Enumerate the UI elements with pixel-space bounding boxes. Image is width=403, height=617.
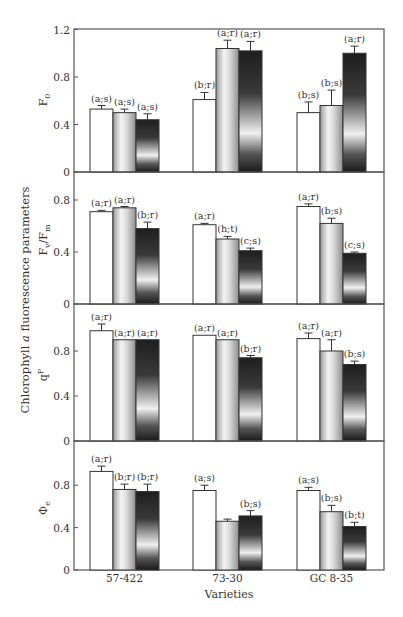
significance-label: (a;r) <box>91 311 112 322</box>
bar <box>193 335 216 441</box>
bar <box>216 340 239 441</box>
bar <box>113 489 136 570</box>
significance-label: (a;s) <box>298 474 319 485</box>
significance-label: (b;s) <box>344 348 366 359</box>
panel-y-label: F0 <box>37 94 52 107</box>
significance-label: (a;r) <box>240 28 261 39</box>
significance-label: (h;t) <box>217 223 238 234</box>
bar <box>216 239 239 304</box>
significance-label: (a;r) <box>114 327 135 338</box>
bar <box>320 106 343 173</box>
bar <box>113 340 136 441</box>
significance-label: (a;r) <box>137 327 158 338</box>
significance-label: (b;s) <box>298 89 320 100</box>
shared-y-axis-label: Chlorophyll a fluorescence parameters <box>18 186 32 413</box>
bar <box>297 113 320 172</box>
panel-1: 00.40.8Fv/Fm(a;r)(a;r)(a;r)(a;r)(h;t)(b;… <box>37 172 384 310</box>
bar <box>320 351 343 441</box>
bar <box>136 492 159 570</box>
significance-label: (b;r) <box>240 343 261 354</box>
y-tick-label: 0.8 <box>53 194 70 206</box>
x-axis: 57-42273-30GC 8-35 <box>106 572 353 584</box>
significance-label: (b;s) <box>321 492 343 503</box>
significance-label: (a;s) <box>91 93 112 104</box>
bar <box>297 491 320 571</box>
bar <box>343 365 366 442</box>
significance-label: (c;s) <box>344 239 365 250</box>
bar <box>193 100 216 172</box>
bar <box>216 49 239 173</box>
bar <box>239 51 262 172</box>
x-category-label: 57-422 <box>106 572 143 584</box>
bar <box>193 491 216 571</box>
y-tick-label: 0.8 <box>53 345 70 357</box>
bar <box>136 340 159 441</box>
significance-label: (b;s) <box>321 77 343 88</box>
bar <box>113 208 136 304</box>
bar <box>193 225 216 304</box>
bar <box>320 223 343 304</box>
bar <box>343 53 366 172</box>
bar <box>343 253 366 304</box>
significance-label: (a;r) <box>217 27 238 38</box>
significance-label: (a;r) <box>91 197 112 208</box>
y-tick-label: 1.2 <box>53 24 70 36</box>
significance-label: (b;r) <box>194 79 215 90</box>
significance-label: (b;s) <box>240 498 262 509</box>
significance-label: (b;t) <box>344 509 365 520</box>
bar <box>320 512 343 570</box>
panel-2: 00.40.8qP(a;r)(a;r)(a;r)(a;r)(a;r)(a;r)(… <box>36 304 384 447</box>
significance-label: (a;r) <box>321 327 342 338</box>
bar <box>113 113 136 172</box>
panel-y-label: Fv/Fm <box>37 224 52 256</box>
bar <box>297 339 320 441</box>
significance-label: (b;r) <box>137 209 158 220</box>
significance-label: (a;r) <box>298 191 319 202</box>
bar <box>343 527 366 570</box>
y-tick-label: 0 <box>63 435 70 447</box>
significance-label: (c;s) <box>240 235 261 246</box>
bar <box>239 516 262 570</box>
bar <box>90 212 113 304</box>
bar <box>136 120 159 172</box>
chlorophyll-fluorescence-figure: 00.40.81.2F0(a;s)(b;r)(b;s)(a;s)(a;r)(b;… <box>0 0 403 617</box>
bar <box>90 331 113 441</box>
bar <box>90 109 113 172</box>
y-tick-label: 0.8 <box>53 479 70 491</box>
significance-label: (a;s) <box>194 472 215 483</box>
y-tick-label: 0.8 <box>53 71 70 83</box>
x-category-label: GC 8-35 <box>310 572 353 584</box>
y-tick-label: 0 <box>63 298 70 310</box>
panel-0: 00.40.81.2F0(a;s)(b;r)(b;s)(a;s)(a;r)(b;… <box>37 24 384 179</box>
bar <box>239 251 262 304</box>
x-axis-label: Varieties <box>204 588 254 601</box>
y-tick-label: 0.4 <box>53 119 70 131</box>
significance-label: (b;r) <box>114 471 135 482</box>
bar <box>136 229 159 304</box>
bar <box>239 358 262 441</box>
bar <box>297 207 320 305</box>
significance-label: (a;r) <box>114 194 135 205</box>
panel-3: 00.40.8Φe(a;r)(a;s)(a;s)(b;r)(b;s)(b;r)(… <box>37 441 384 576</box>
significance-label: (a;s) <box>114 96 135 107</box>
y-tick-label: 0.4 <box>53 390 70 402</box>
panel-y-label: qP <box>36 368 50 381</box>
panel-y-label: Φe <box>37 501 52 515</box>
y-tick-label: 0.4 <box>53 522 70 534</box>
significance-label: (b;r) <box>137 471 158 482</box>
significance-label: (a;r) <box>298 320 319 331</box>
significance-label: (a;r) <box>194 322 215 333</box>
y-tick-label: 0.4 <box>53 246 70 258</box>
significance-label: (a;r) <box>194 210 215 221</box>
bar <box>90 471 113 570</box>
panels: 00.40.81.2F0(a;s)(b;r)(b;s)(a;s)(a;r)(b;… <box>36 24 384 577</box>
x-category-label: 73-30 <box>212 572 242 584</box>
y-tick-label: 0 <box>63 166 70 178</box>
significance-label: (a;s) <box>137 101 158 112</box>
y-tick-label: 0 <box>63 564 70 576</box>
significance-label: (a;r) <box>217 327 238 338</box>
significance-label: (a;r) <box>344 33 365 44</box>
significance-label: (b;s) <box>321 205 343 216</box>
bar <box>216 521 239 570</box>
significance-label: (a;r) <box>91 453 112 464</box>
